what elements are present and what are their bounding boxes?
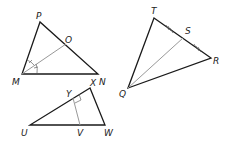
label-r: R — [213, 56, 219, 66]
label-y: Y — [66, 89, 73, 99]
label-w: W — [104, 128, 114, 138]
label-t: T — [151, 6, 158, 16]
angle-bisector-mo — [22, 44, 66, 74]
angle-mark-2 — [36, 64, 37, 73]
label-v: V — [77, 128, 84, 138]
label-u: U — [21, 128, 28, 138]
label-p: P — [36, 11, 42, 21]
label-n: N — [99, 77, 106, 87]
angle-mark-1 — [27, 60, 34, 65]
congruence-ticks-ts — [166, 25, 173, 33]
label-o: O — [65, 35, 72, 45]
label-x: X — [89, 78, 97, 88]
label-s: S — [185, 26, 191, 36]
triangle-uwx: X U W Y V — [21, 78, 114, 138]
triangle-qrt: T R Q S — [119, 6, 219, 99]
congruence-ticks-sr — [194, 44, 201, 52]
geometry-diagram: P M N O T R Q S X U W Y V — [0, 0, 227, 146]
median-qs — [128, 38, 183, 88]
label-m: M — [12, 77, 20, 87]
triangles-figure: P M N O T R Q S X U W Y V — [0, 0, 227, 146]
triangle-mnp: P M N O — [12, 11, 106, 87]
label-q: Q — [119, 89, 126, 99]
